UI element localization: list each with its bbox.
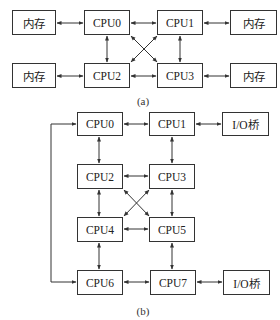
cpu-node-cpu4: CPU4 <box>77 217 123 242</box>
memory-node: 内存 <box>12 10 56 35</box>
cpu-node-cpu3: CPU3 <box>157 63 203 88</box>
memory-node: 内存 <box>230 63 277 88</box>
cpu-node-cpu1: CPU1 <box>149 112 195 136</box>
caption-a: (a) <box>137 95 149 107</box>
cpu-node-cpu6: CPU6 <box>77 270 123 295</box>
caption-b: (b) <box>137 305 150 317</box>
cpu-node-cpu0: CPU0 <box>77 112 123 136</box>
memory-node: 内存 <box>12 63 56 88</box>
memory-node: 内存 <box>230 10 277 35</box>
link-cpu_b0-cpu_b6 <box>51 124 76 282</box>
cpu-node-cpu7: CPU7 <box>150 270 196 295</box>
cpu-node-cpu5: CPU5 <box>149 217 195 242</box>
multiprocessor-interconnect-diagram: 内存CPU0CPU1内存内存CPU2CPU3内存 CPU0CPU1I/O桥CPU… <box>0 0 280 320</box>
cpu-node-cpu2: CPU2 <box>84 63 130 88</box>
cpu-node-cpu1: CPU1 <box>157 10 203 35</box>
cpu-node-cpu2: CPU2 <box>77 164 123 189</box>
io-bridge-node: I/O桥 <box>222 112 269 136</box>
cpu-node-cpu0: CPU0 <box>84 10 130 35</box>
io-bridge-node: I/O桥 <box>223 270 270 295</box>
cpu-node-cpu3: CPU3 <box>149 164 195 189</box>
